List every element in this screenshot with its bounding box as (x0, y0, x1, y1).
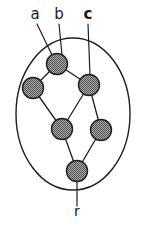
graph-node-n4[interactable] (52, 119, 73, 140)
leader-line-a (37, 24, 52, 55)
label-r: r (74, 203, 80, 219)
labels-group: a b c r (30, 5, 92, 219)
graph-node-n5[interactable] (91, 120, 112, 141)
graph-node-n3[interactable] (79, 75, 100, 96)
leader-line-c (88, 24, 90, 75)
label-a: a (30, 5, 39, 23)
figure-root: a b c r (0, 0, 148, 229)
label-b: b (54, 5, 64, 23)
graph-diagram: a b c r (0, 0, 148, 229)
graph-node-root[interactable] (67, 161, 88, 182)
graph-node-n2[interactable] (23, 78, 44, 99)
graph-node-n1[interactable] (47, 54, 68, 75)
label-c: c (84, 5, 93, 23)
